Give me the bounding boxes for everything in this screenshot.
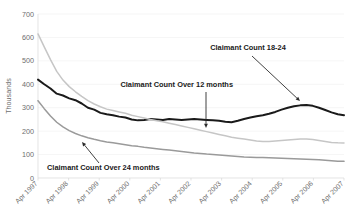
x-tick-label: Apr 2000 [105, 180, 131, 206]
annot-over-12-months-label: Claimant Count Over 12 months [120, 80, 233, 89]
x-axis: Apr 1997Apr 1998Apr 1999Apr 2000Apr 2001… [14, 178, 346, 206]
y-tick-label: 700 [22, 10, 34, 19]
x-tick-label: Apr 2002 [167, 180, 193, 206]
y-axis-title: Thousands [4, 78, 13, 114]
y-axis: 0100200300400500600700 [22, 10, 34, 183]
y-tick-label: 500 [22, 56, 34, 65]
annot-claimant-18-24-label: Claimant Count 18-24 [210, 43, 286, 52]
gridlines [38, 14, 344, 178]
line-chart: 0100200300400500600700 Apr 1997Apr 1998A… [0, 0, 350, 222]
y-tick-label: 400 [22, 80, 34, 89]
annot-over-24-months-leader-line [85, 145, 99, 163]
x-tick-label: Apr 2003 [197, 180, 223, 206]
x-tick-label: Apr 1997 [14, 180, 40, 206]
x-tick-label: Apr 2007 [320, 180, 346, 206]
x-tick-label: Apr 2001 [136, 180, 162, 206]
annot-over-24-months-label: Claimant Count Over 24 months [47, 163, 160, 172]
x-tick-label: Apr 1998 [44, 180, 70, 206]
x-tick-label: Apr 2006 [289, 180, 315, 206]
x-tick-label: Apr 2005 [258, 180, 284, 206]
y-tick-label: 100 [22, 150, 34, 159]
x-tick-label: Apr 2004 [228, 180, 254, 206]
y-tick-label: 200 [22, 127, 34, 136]
chart-canvas: 0100200300400500600700 Apr 1997Apr 1998A… [0, 0, 350, 222]
y-tick-label: 600 [22, 33, 34, 42]
y-axis-title-label: Thousands [4, 78, 13, 114]
annot-claimant-18-24-leader-line [252, 56, 297, 98]
annot-over-12-months-arrowhead [204, 124, 208, 128]
y-tick-label: 300 [22, 103, 34, 112]
x-tick-label: Apr 1999 [75, 180, 101, 206]
